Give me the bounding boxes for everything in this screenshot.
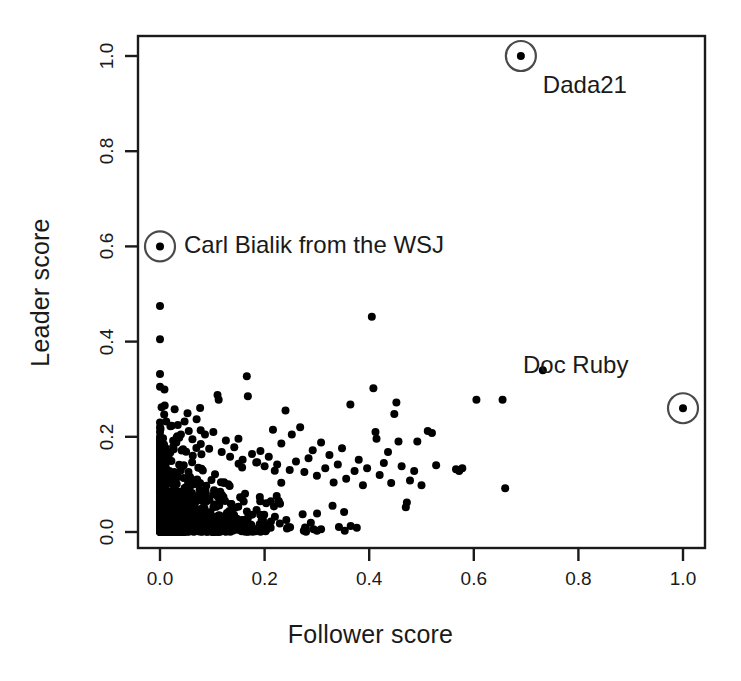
x-tick-label: 0.0 — [130, 568, 190, 590]
y-tick-label: 0.0 — [96, 502, 118, 562]
x-tick-label: 0.4 — [339, 568, 399, 590]
x-tick-label: 1.0 — [653, 568, 713, 590]
annotation-label-0: Dada21 — [543, 71, 627, 99]
x-axis-title: Follower score — [0, 620, 741, 649]
y-tick-label: 0.4 — [96, 312, 118, 372]
y-axis-title: Leader score — [26, 193, 55, 393]
y-tick-label: 1.0 — [96, 26, 118, 86]
scatter-plot-figure: Follower score Leader score 0.00.20.40.6… — [0, 0, 741, 681]
y-tick-label: 0.2 — [96, 407, 118, 467]
annotation-label-2: Doc Ruby — [523, 351, 628, 379]
annotation-label-1: Carl Bialik from the WSJ — [184, 231, 444, 259]
y-tick-label: 0.6 — [96, 216, 118, 276]
plot-frame — [138, 36, 705, 548]
x-tick-label: 0.8 — [548, 568, 608, 590]
x-tick-label: 0.6 — [444, 568, 504, 590]
x-tick-label: 0.2 — [235, 568, 295, 590]
y-tick-label: 0.8 — [96, 121, 118, 181]
